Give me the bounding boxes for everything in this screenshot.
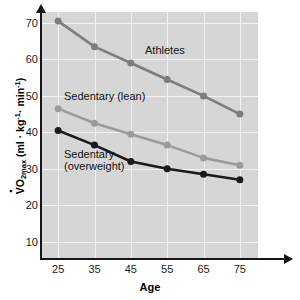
x-tick-label: 65: [191, 263, 217, 275]
data-point-marker: [200, 92, 207, 99]
x-axis-title: Age: [0, 281, 300, 293]
series-label-sedentary-lean-text: Sedentary (lean): [64, 90, 145, 102]
data-point-marker: [200, 171, 207, 178]
data-point-marker: [91, 120, 98, 127]
data-point-marker: [55, 18, 62, 25]
x-axis-title-text: Age: [140, 281, 161, 293]
x-axis-extension: [256, 258, 286, 260]
y-axis-title-sup2: -1: [13, 81, 22, 88]
y-axis-title-o: O: [14, 179, 26, 187]
data-point-marker: [164, 142, 171, 149]
data-point-marker: [55, 105, 62, 112]
data-point-marker: [55, 127, 62, 134]
series-label-athletes-text: Athletes: [145, 44, 185, 56]
y-axis-title-sep1: ·: [14, 135, 26, 139]
series-label-sedentary-lean: Sedentary (lean): [64, 90, 145, 102]
data-point-marker: [127, 158, 134, 165]
y-axis-title: VO2max (ml · kg-1· min-1): [14, 11, 26, 261]
y-axis-arrow-icon: [36, 4, 46, 13]
series-label-sedentary-overweight-line1: Sedentary: [64, 148, 125, 160]
x-tick-label: 35: [82, 263, 108, 275]
y-axis-line: [40, 12, 42, 260]
v-dot-icon: V: [14, 187, 26, 194]
data-point-marker: [164, 165, 171, 172]
data-point-marker: [236, 162, 243, 169]
data-point-marker: [91, 43, 98, 50]
data-point-marker: [200, 154, 207, 161]
series-label-athletes: Athletes: [145, 44, 185, 56]
vo2max-age-chart: 10203040506070 253545556575 Athletes Sed…: [0, 0, 300, 300]
x-tick-label: 25: [45, 263, 71, 275]
x-tick-label: 75: [227, 263, 253, 275]
x-axis-arrow-icon: [284, 254, 293, 264]
data-point-marker: [127, 60, 134, 67]
data-point-marker: [236, 111, 243, 118]
x-axis-line: [40, 258, 258, 260]
x-tick-label: 55: [154, 263, 180, 275]
data-point-marker: [164, 76, 171, 83]
y-axis-title-min: min: [14, 88, 26, 110]
x-tick-label: 45: [118, 263, 144, 275]
data-point-marker: [127, 131, 134, 138]
y-axis-title-sub: 2max: [19, 160, 28, 179]
data-point-marker: [236, 176, 243, 183]
y-axis-title-open: (ml: [14, 138, 26, 160]
series-label-sedentary-overweight-line2: (overweight): [64, 160, 125, 172]
series-label-sedentary-overweight: Sedentary (overweight): [64, 148, 125, 173]
y-axis-title-sup1: -1: [13, 113, 22, 120]
y-axis-title-kg: kg: [14, 120, 26, 135]
